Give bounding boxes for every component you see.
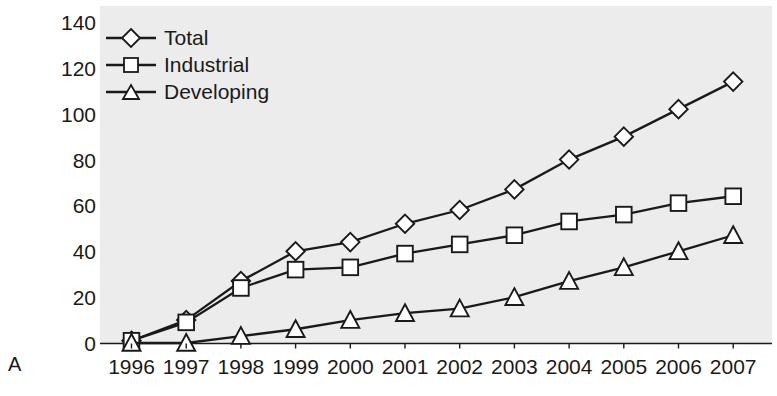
diamond-data-marker — [505, 180, 523, 198]
square-data-marker — [343, 260, 359, 276]
triangle-data-marker — [615, 258, 633, 275]
x-tick-label: 2000 — [327, 356, 374, 377]
triangle-data-marker — [505, 288, 523, 305]
chart-legend: Total Industrial Developing — [104, 24, 354, 105]
square-data-marker — [671, 195, 687, 211]
square-data-marker — [288, 262, 304, 278]
x-tick-label: 1997 — [163, 356, 210, 377]
x-tick-label: 2005 — [600, 356, 647, 377]
square-data-marker — [616, 207, 632, 223]
series-developing — [123, 226, 743, 351]
diamond-data-marker — [396, 215, 414, 233]
x-tick-label: 2002 — [436, 356, 483, 377]
diamond-data-marker — [341, 233, 359, 251]
square-data-marker — [507, 227, 523, 243]
triangle-data-marker — [724, 226, 742, 243]
x-tick-label: 2003 — [491, 356, 538, 377]
chart-figure: 020406080100120140 199619971998199920002… — [0, 0, 777, 396]
square-data-marker — [561, 214, 577, 230]
square-data-marker — [725, 188, 741, 204]
diamond-data-marker — [286, 242, 304, 260]
series-industrial — [124, 188, 741, 348]
triangle-marker-icon — [104, 81, 158, 103]
legend-item-industrial: Industrial — [104, 51, 354, 78]
legend-item-total: Total — [104, 24, 354, 51]
legend-label-total: Total — [164, 27, 208, 48]
legend-label-industrial: Industrial — [164, 54, 249, 75]
diamond-data-marker — [451, 201, 469, 219]
diamond-data-marker — [560, 150, 578, 168]
diamond-marker-icon — [104, 27, 158, 49]
square-data-marker — [452, 237, 468, 253]
x-axis-tick-labels: 1996199719981999200020012002200320042005… — [0, 352, 777, 386]
triangle-data-marker — [670, 242, 688, 259]
x-tick-label: 1998 — [218, 356, 265, 377]
x-tick-label: 2007 — [710, 356, 757, 377]
x-tick-label: 2001 — [382, 356, 429, 377]
square-data-marker — [178, 315, 194, 331]
x-tick-label: 1996 — [108, 356, 155, 377]
legend-item-developing: Developing — [104, 78, 354, 105]
x-tick-label: 1999 — [272, 356, 319, 377]
legend-label-developing: Developing — [164, 81, 269, 102]
diamond-data-marker — [724, 72, 742, 90]
diamond-data-marker — [669, 100, 687, 118]
x-tick-label: 2006 — [655, 356, 702, 377]
square-data-marker — [397, 246, 413, 262]
square-marker-icon — [104, 54, 158, 76]
panel-label: A — [8, 354, 21, 374]
diamond-data-marker — [615, 127, 633, 145]
square-data-marker — [233, 280, 249, 296]
series-total — [122, 72, 742, 349]
series-line — [132, 235, 734, 343]
x-tick-label: 2004 — [546, 356, 593, 377]
data-series-layer — [122, 72, 742, 350]
